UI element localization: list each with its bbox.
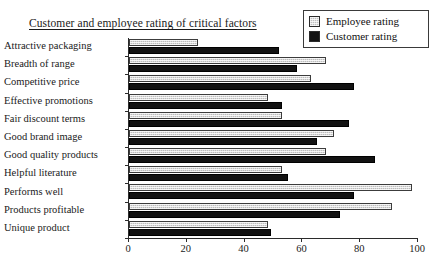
x-axis-tick: [417, 238, 418, 242]
bar-customer-rating: [129, 211, 340, 218]
x-axis-tick-label: 60: [286, 243, 316, 255]
y-axis-tick: [125, 147, 128, 148]
bar-group: [129, 56, 418, 74]
bar-employee-rating: [129, 166, 282, 173]
y-axis-tick: [125, 129, 128, 130]
bar-group: [129, 147, 418, 165]
x-axis-tick: [128, 238, 129, 242]
legend-label-employee-rating: Employee rating: [326, 15, 399, 28]
bar-customer-rating: [129, 102, 282, 109]
bar-group: [129, 129, 418, 147]
category-label: Effective promotions: [4, 95, 126, 107]
bar-customer-rating: [129, 65, 297, 72]
category-label: Helpful literature: [4, 167, 126, 179]
y-axis-tick: [125, 93, 128, 94]
x-axis-tick: [186, 238, 187, 242]
bar-customer-rating: [129, 120, 349, 127]
bar-employee-rating: [129, 184, 412, 191]
y-axis-tick: [125, 202, 128, 203]
bar-chart: Customer and employee rating of critical…: [0, 0, 439, 269]
category-label: Good brand image: [4, 131, 126, 143]
x-axis-tick: [244, 238, 245, 242]
bar-customer-rating: [129, 229, 271, 236]
bar-employee-rating: [129, 203, 392, 210]
category-label: Products profitable: [4, 204, 126, 216]
legend-item-employee-rating: Employee rating: [309, 14, 423, 29]
x-axis-tick-label: 100: [402, 243, 432, 255]
bar-customer-rating: [129, 174, 288, 181]
bar-customer-rating: [129, 138, 317, 145]
category-label: Fair discount terms: [4, 113, 126, 125]
category-label: Performs well: [4, 186, 126, 198]
bar-group: [129, 38, 418, 56]
y-axis-tick: [125, 165, 128, 166]
y-axis-tick: [125, 74, 128, 75]
x-axis-tick-label: 80: [344, 243, 374, 255]
bar-customer-rating: [129, 83, 354, 90]
bar-group: [129, 111, 418, 129]
bar-group: [129, 74, 418, 92]
y-axis-tick: [125, 183, 128, 184]
bar-employee-rating: [129, 112, 282, 119]
y-axis-tick: [125, 56, 128, 57]
bar-customer-rating: [129, 192, 354, 199]
bar-employee-rating: [129, 148, 326, 155]
category-label: Competitive price: [4, 76, 126, 88]
bar-group: [129, 202, 418, 220]
chart-title: Customer and employee rating of critical…: [29, 17, 257, 30]
bar-customer-rating: [129, 156, 375, 163]
x-axis-tick-label: 20: [171, 243, 201, 255]
x-axis-line: [128, 238, 418, 239]
y-axis-tick: [125, 111, 128, 112]
x-axis-tick: [359, 238, 360, 242]
bar-employee-rating: [129, 39, 198, 46]
bar-employee-rating: [129, 57, 326, 64]
bar-employee-rating: [129, 221, 268, 228]
bar-employee-rating: [129, 130, 334, 137]
employee-rating-swatch-icon: [309, 16, 320, 27]
y-axis-tick: [125, 220, 128, 221]
bar-group: [129, 183, 418, 201]
bar-customer-rating: [129, 47, 279, 54]
bar-group: [129, 165, 418, 183]
bar-employee-rating: [129, 94, 268, 101]
x-axis-tick-label: 40: [229, 243, 259, 255]
category-label: Good quality products: [4, 149, 126, 161]
plot-area: 020406080100: [128, 38, 417, 238]
bar-group: [129, 93, 418, 111]
bar-employee-rating: [129, 75, 311, 82]
x-axis-tick-label: 0: [113, 243, 143, 255]
category-label: Unique product: [4, 222, 126, 234]
bar-group: [129, 220, 418, 238]
category-label: Breadth of range: [4, 58, 126, 70]
category-axis-labels: Attractive packagingBreadth of rangeComp…: [22, 38, 126, 238]
category-label: Attractive packaging: [4, 40, 126, 52]
x-axis-tick: [301, 238, 302, 242]
